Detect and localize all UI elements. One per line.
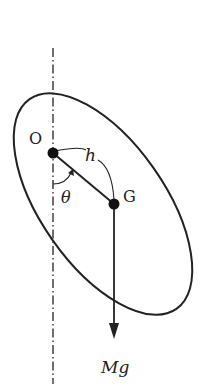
center-of-mass-point-g	[109, 199, 120, 210]
rigid-body-ellipse	[0, 64, 216, 345]
weight-arrowhead-icon	[109, 323, 119, 339]
pendulum-diagram: O G h θ Mg	[0, 0, 216, 392]
label-h: h	[85, 145, 96, 165]
angle-theta-arc	[53, 173, 71, 184]
label-o: O	[29, 129, 42, 148]
label-g: G	[123, 187, 136, 206]
label-theta: θ	[61, 188, 71, 207]
label-mg: Mg	[100, 357, 129, 377]
angle-arrowhead-icon	[68, 169, 74, 176]
pivot-point-o	[48, 148, 59, 159]
